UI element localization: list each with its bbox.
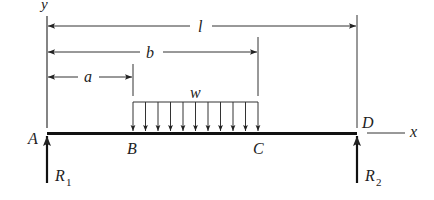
- point-label-d: D: [361, 114, 374, 131]
- point-label-c: C: [253, 140, 264, 157]
- reaction-r2: R 2: [357, 136, 382, 188]
- dimension-label-l: l: [198, 18, 203, 35]
- load-label-w: w: [190, 84, 201, 101]
- y-axis-label: y: [39, 0, 48, 12]
- dimension-label-a: a: [84, 68, 92, 85]
- reaction-r1: R 1: [47, 136, 72, 188]
- reaction-label-r1: R: [54, 167, 65, 184]
- load-arrows: [133, 102, 258, 131]
- reaction-subscript-r2: 2: [376, 176, 382, 188]
- x-axis-label: x: [409, 123, 417, 140]
- dimension-label-b: b: [146, 44, 154, 61]
- point-label-a: A: [27, 130, 38, 147]
- dimension-l: l: [48, 18, 356, 35]
- reaction-label-r2: R: [364, 167, 375, 184]
- point-label-b: B: [127, 140, 137, 157]
- reaction-subscript-r1: 1: [66, 176, 72, 188]
- dimension-a: a: [48, 68, 132, 85]
- distributed-load: w: [133, 84, 258, 131]
- beam-diagram: y l b a w: [0, 0, 434, 200]
- dimension-b: b: [48, 44, 257, 61]
